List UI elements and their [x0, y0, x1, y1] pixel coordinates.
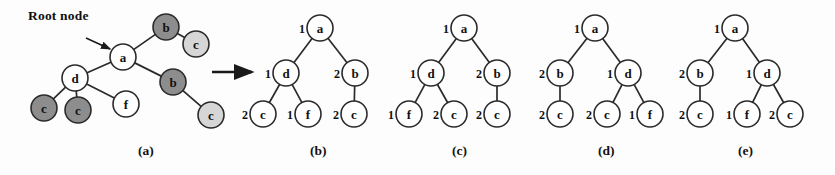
- tree-edge: [86, 62, 112, 73]
- tree-node[interactable]: c: [250, 101, 276, 127]
- tree-edge: [612, 84, 622, 104]
- tree-edge: [86, 83, 116, 98]
- node-label: d: [763, 66, 771, 81]
- node-weight-label: 1: [265, 67, 271, 81]
- node-label: f: [124, 97, 129, 112]
- tree-node[interactable]: b: [153, 14, 179, 40]
- node-weight-label: 2: [539, 108, 545, 122]
- tree-edge: [292, 84, 303, 104]
- node-label: a: [732, 21, 739, 36]
- tree-node[interactable]: c: [777, 101, 803, 127]
- tree-node[interactable]: d: [418, 60, 444, 86]
- node-weight-label: 1: [607, 67, 613, 81]
- node-weight-label: 1: [714, 22, 720, 36]
- root-node-annotation: Root node: [28, 8, 89, 24]
- tree-node[interactable]: d: [615, 60, 641, 86]
- node-label: c: [351, 107, 357, 122]
- node-label: a: [592, 21, 599, 36]
- node-label: a: [461, 21, 468, 36]
- node-label: d: [71, 71, 79, 86]
- caption-b: (b): [310, 143, 327, 159]
- tree-edge: [437, 83, 448, 103]
- tree-edge: [567, 37, 587, 63]
- tree-edge: [269, 83, 280, 103]
- node-label: c: [697, 107, 703, 122]
- node-label: c: [604, 107, 610, 122]
- tree-node[interactable]: b: [547, 60, 573, 86]
- node-label: d: [427, 66, 435, 81]
- node-label: b: [493, 66, 500, 81]
- node-weight-label: 2: [333, 108, 339, 122]
- tree-node[interactable]: c: [198, 102, 224, 128]
- caption-d: (d): [598, 143, 615, 159]
- panel-d: abdccf: [547, 15, 663, 127]
- node-weight-label: 2: [539, 67, 545, 81]
- tree-node[interactable]: a: [307, 15, 333, 41]
- node-label: f: [745, 107, 750, 122]
- tree-node[interactable]: f: [396, 101, 422, 127]
- node-weight-label: 1: [726, 108, 732, 122]
- tree-node[interactable]: a: [110, 44, 136, 70]
- tree-node[interactable]: d: [754, 60, 780, 86]
- node-label: b: [696, 66, 703, 81]
- node-weight-label: 2: [242, 108, 248, 122]
- tree-edge: [707, 37, 727, 63]
- node-weight-label: 1: [629, 108, 635, 122]
- node-label: b: [162, 20, 169, 35]
- tree-node[interactable]: c: [441, 101, 467, 127]
- tree-node[interactable]: b: [342, 60, 368, 86]
- tree-node[interactable]: c: [31, 95, 57, 121]
- tree-node[interactable]: b: [484, 60, 510, 86]
- tree-node[interactable]: a: [451, 15, 477, 41]
- node-weight-label: 2: [679, 67, 685, 81]
- tree-node[interactable]: b: [160, 69, 186, 95]
- tree-edge: [293, 38, 313, 64]
- tree-node[interactable]: c: [183, 31, 209, 57]
- node-weight-label: 2: [586, 108, 592, 122]
- tree-edge: [134, 62, 163, 76]
- node-label: c: [451, 107, 457, 122]
- node-label: d: [624, 66, 632, 81]
- tree-node[interactable]: f: [113, 91, 139, 117]
- tree-node[interactable]: d: [62, 65, 88, 91]
- tree-node[interactable]: f: [637, 101, 663, 127]
- node-weight-label: 2: [679, 108, 685, 122]
- tree-edge: [634, 84, 645, 104]
- panel-a: abcbcdccf: [31, 14, 224, 128]
- tree-edge: [182, 90, 202, 107]
- caption-a: (a): [138, 143, 154, 159]
- tree-node[interactable]: c: [484, 101, 510, 127]
- tree-edge: [602, 38, 621, 64]
- tree-node[interactable]: f: [295, 101, 321, 127]
- tree-node[interactable]: a: [582, 15, 608, 41]
- node-label: c: [41, 101, 47, 116]
- tree-edge: [53, 86, 67, 99]
- tree-edge: [471, 38, 490, 64]
- node-weight-label: 2: [476, 108, 482, 122]
- node-weight-label: 1: [388, 108, 394, 122]
- trees-svg: abcbcdccfadbcfc112212adbfcc112122abdccf1…: [0, 0, 835, 175]
- caption-c: (c): [452, 143, 467, 159]
- node-label: c: [494, 107, 500, 122]
- tree-edge: [752, 84, 761, 103]
- node-label: c: [787, 107, 793, 122]
- node-weight-label: 1: [574, 22, 580, 36]
- caption-e: (e): [738, 143, 753, 159]
- tree-node[interactable]: c: [341, 101, 367, 127]
- tree-node[interactable]: b: [687, 60, 713, 86]
- tree-node[interactable]: a: [722, 15, 748, 41]
- node-label: d: [282, 66, 290, 81]
- tree-edge: [773, 83, 784, 103]
- node-label: c: [75, 103, 81, 118]
- tree-node[interactable]: c: [65, 97, 91, 123]
- node-weight-label: 1: [443, 22, 449, 36]
- tree-node[interactable]: d: [273, 60, 299, 86]
- tree-node[interactable]: c: [687, 101, 713, 127]
- node-weight-label: 1: [299, 22, 305, 36]
- node-label: a: [317, 21, 324, 36]
- node-weight-label: 1: [287, 108, 293, 122]
- tree-node[interactable]: c: [594, 101, 620, 127]
- node-label: a: [120, 50, 127, 65]
- tree-node[interactable]: c: [547, 101, 573, 127]
- tree-node[interactable]: f: [734, 101, 760, 127]
